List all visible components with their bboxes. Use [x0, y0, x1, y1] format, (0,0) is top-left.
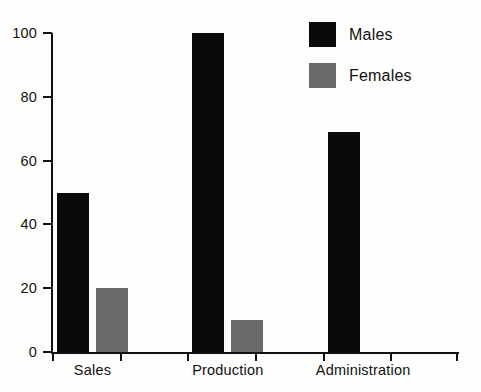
chart-legend: Males Females — [309, 22, 412, 104]
y-axis-tick-label: 100 — [12, 25, 37, 41]
x-axis-label-sales: Sales — [74, 362, 111, 378]
bar-sales-males — [57, 193, 89, 353]
legend-label-males: Males — [349, 26, 393, 44]
y-axis-tick: 80 — [43, 96, 52, 98]
legend-swatch-icon-males — [309, 22, 336, 47]
y-axis-tick-label: 80 — [20, 89, 37, 105]
y-axis-tick-label: 0 — [29, 344, 37, 360]
x-axis-label-production: Production — [192, 362, 263, 378]
y-axis-tick: 0 — [43, 351, 52, 353]
y-axis-tick-label: 20 — [20, 280, 37, 296]
y-axis-tick: 60 — [43, 160, 52, 162]
bar-chart: 020406080100SalesProductionAdministratio… — [0, 0, 481, 392]
y-axis-tick: 20 — [43, 287, 52, 289]
bar-administration-males — [328, 132, 360, 352]
x-axis-tick — [456, 352, 458, 361]
x-axis-tick — [255, 352, 257, 361]
x-axis-tick — [120, 352, 122, 361]
y-axis-tick: 100 — [43, 32, 52, 34]
x-axis-tick — [323, 352, 325, 361]
bar-production-males — [192, 33, 224, 352]
y-axis-tick-label: 40 — [20, 216, 37, 232]
legend-swatch-icon-females — [309, 63, 336, 88]
x-axis-tick — [390, 352, 392, 361]
legend-item-males: Males — [309, 22, 412, 47]
x-axis-tick — [187, 352, 189, 361]
legend-item-females: Females — [309, 63, 412, 88]
bar-production-females — [231, 320, 263, 352]
y-axis-tick-label: 60 — [20, 153, 37, 169]
x-axis-label-administration: Administration — [316, 362, 411, 378]
bar-sales-females — [96, 288, 128, 352]
x-axis-tick — [52, 352, 54, 361]
y-axis-tick: 40 — [43, 223, 52, 225]
legend-label-females: Females — [349, 67, 412, 85]
